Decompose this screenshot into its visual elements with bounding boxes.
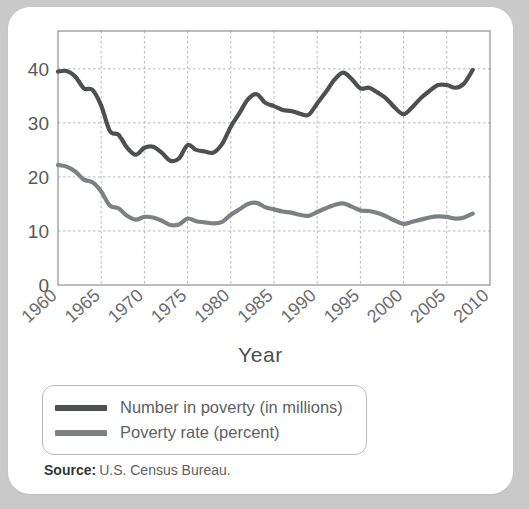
figure-card: 0102030401960196519701975198019851990199…: [8, 7, 513, 494]
source-note: Source:U.S. Census Bureau.: [44, 462, 231, 478]
legend-swatch-number-in-poverty: [55, 405, 107, 411]
poverty-line-chart: 0102030401960196519701975198019851990199…: [8, 7, 513, 337]
y-axis-tick-label: 40: [28, 59, 49, 80]
legend-item-number-in-poverty: Number in poverty (in millions): [55, 395, 352, 420]
source-label: Source:: [44, 462, 96, 478]
y-axis-tick-label: 30: [28, 113, 49, 134]
x-axis-tick-label: 1990: [277, 285, 320, 327]
x-axis-tick-label: 1985: [234, 285, 277, 327]
series-line-poverty-rate: [58, 165, 473, 225]
x-axis-tick-label: 1960: [18, 285, 61, 327]
legend-item-poverty-rate: Poverty rate (percent): [55, 420, 352, 445]
x-axis-tick-label: 1980: [190, 285, 233, 327]
source-value: U.S. Census Bureau.: [99, 462, 231, 478]
y-axis-tick-label: 20: [28, 167, 49, 188]
x-axis-tick-label: 1995: [320, 285, 363, 327]
x-axis-title: Year: [8, 343, 513, 367]
x-axis-tick-label: 1975: [147, 285, 190, 327]
x-axis-tick-label: 2010: [450, 285, 493, 327]
legend-label-number-in-poverty: Number in poverty (in millions): [120, 398, 343, 417]
x-axis-tick-label: 1970: [104, 285, 147, 327]
y-axis-tick-label: 10: [28, 221, 49, 242]
x-axis-tick-label: 1965: [61, 285, 104, 327]
legend-label-poverty-rate: Poverty rate (percent): [120, 423, 280, 442]
legend-swatch-poverty-rate: [55, 430, 107, 436]
x-axis-tick-label: 2000: [363, 285, 406, 327]
chart-plot-area: 0102030401960196519701975198019851990199…: [8, 7, 513, 337]
chart-legend: Number in poverty (in millions) Poverty …: [42, 385, 367, 455]
x-axis-tick-label: 2005: [406, 285, 449, 327]
series-line-number-in-poverty: [58, 70, 473, 161]
